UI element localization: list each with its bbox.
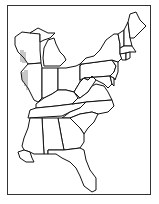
state-wisconsin xyxy=(15,30,41,64)
state-rhode-island xyxy=(126,52,130,60)
state-illinois xyxy=(21,63,42,102)
state-new-york xyxy=(80,34,122,64)
eastern-us-map xyxy=(0,0,159,204)
state-mississippi xyxy=(22,118,44,154)
state-florida xyxy=(48,148,96,192)
state-maine xyxy=(128,12,146,38)
state-michigan-lower xyxy=(43,38,66,66)
